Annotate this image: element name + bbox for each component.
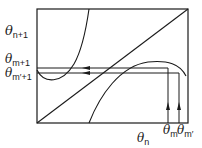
symbol: θ [5,23,13,38]
arrow-up-icon [166,102,170,110]
arrow-up-icon [177,102,181,110]
arrow-left-icon [82,71,90,75]
label-theta-m: θm [163,124,178,139]
arrow-left-icon [82,66,90,70]
subscript: m′+1 [12,72,31,82]
subscript: n [144,137,149,147]
label-theta-mprime: θm′ [177,124,193,139]
map-curve-left [37,9,89,80]
label-theta-mprime-plus-1: θm′+1 [5,67,32,82]
subscript: m′ [184,129,193,139]
identity-line [37,9,188,123]
map-curve-right [89,62,186,123]
label-theta-n: θn [137,132,149,147]
subscript: n+1 [13,30,28,40]
label-theta-n-plus-1: θn+1 [5,24,28,40]
